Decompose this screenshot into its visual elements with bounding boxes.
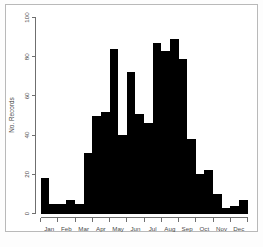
y-axis-title: No. Records bbox=[8, 97, 15, 133]
x-axis-tick-label: Oct bbox=[200, 225, 210, 232]
x-axis-tick-label: May bbox=[112, 225, 125, 232]
chart-canvas: 020406080100 JanFebMarAprMayJunJulAugSep… bbox=[0, 0, 263, 247]
histogram-bar bbox=[239, 200, 248, 214]
histogram-bar bbox=[127, 72, 136, 213]
x-axis-tick-label: Nov bbox=[216, 225, 228, 232]
y-axis-tick-label: 60 bbox=[23, 92, 30, 99]
histogram-bar bbox=[92, 116, 101, 214]
x-axis-tick-label: Apr bbox=[96, 225, 106, 232]
histogram-bar bbox=[58, 204, 67, 214]
histogram-bar bbox=[153, 43, 162, 214]
histogram-bar bbox=[110, 49, 119, 214]
x-axis-tick-label: Jan bbox=[44, 225, 55, 232]
histogram-bar bbox=[213, 194, 222, 214]
histogram-bar bbox=[179, 59, 188, 214]
y-axis-tick-label: 40 bbox=[23, 131, 30, 138]
histogram-bar bbox=[118, 135, 127, 213]
plot-area: 020406080100 JanFebMarAprMayJunJulAugSep… bbox=[0, 0, 263, 247]
x-axis-tick-label: Sep bbox=[182, 225, 194, 232]
histogram-bar bbox=[187, 139, 196, 213]
x-axis-tick-label: Jun bbox=[130, 225, 141, 232]
histogram-bar bbox=[161, 51, 170, 214]
histogram-figure: 020406080100 JanFebMarAprMayJunJulAugSep… bbox=[0, 0, 263, 247]
histogram-bar bbox=[222, 208, 231, 214]
histogram-bar bbox=[75, 204, 84, 214]
histogram-bar bbox=[204, 170, 213, 213]
y-axis-tick-label: 80 bbox=[23, 53, 30, 60]
y-axis-tick-label: 20 bbox=[23, 170, 30, 177]
x-axis-tick-label: Mar bbox=[78, 225, 89, 232]
histogram-bar bbox=[84, 153, 93, 214]
histogram-bar bbox=[41, 178, 50, 213]
histogram-bar bbox=[144, 123, 153, 213]
x-axis-tick-label: Aug bbox=[164, 225, 176, 232]
histogram-bar bbox=[135, 114, 144, 214]
y-axis-tick-label: 100 bbox=[23, 12, 30, 23]
x-axis-tick-label: Feb bbox=[61, 225, 72, 232]
histogram-bar bbox=[196, 174, 205, 213]
x-axis: JanFebMarAprMayJunJulAugSepOctNovDec bbox=[41, 218, 248, 232]
histogram-bar bbox=[230, 206, 239, 214]
histogram-bar bbox=[170, 39, 179, 213]
y-axis: 020406080100 bbox=[23, 12, 36, 215]
histogram-bar bbox=[66, 200, 75, 214]
y-axis-tick-label: 0 bbox=[23, 211, 30, 215]
x-axis-tick-label: Jul bbox=[149, 225, 157, 232]
histogram-bar bbox=[101, 112, 110, 214]
x-axis-tick-label: Dec bbox=[233, 225, 244, 232]
bars-group bbox=[41, 39, 248, 213]
histogram-bar bbox=[49, 204, 58, 214]
